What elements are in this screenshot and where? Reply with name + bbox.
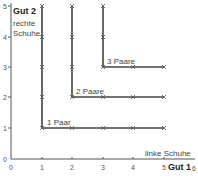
svg-text:0: 0: [3, 156, 7, 163]
y-axis-sub-1: rechte: [13, 19, 36, 28]
y-ticks: 0 1 2 3 4 5: [3, 3, 11, 163]
svg-text:1: 1: [40, 164, 44, 171]
svg-text:0: 0: [9, 164, 13, 171]
svg-text:1: 1: [3, 125, 7, 132]
svg-text:5: 5: [3, 3, 7, 10]
svg-text:3: 3: [3, 64, 7, 71]
label-3-paare: 3 Paare: [107, 57, 136, 66]
curve-2-paare: [72, 6, 164, 97]
label-2-paare: 2 Paare: [76, 87, 105, 96]
x-axis-title: Gut 1: [168, 162, 191, 172]
y-axis-sub-2: Schuhe: [13, 29, 41, 38]
svg-text:2: 2: [3, 94, 7, 101]
svg-text:4: 4: [3, 34, 7, 41]
y-axis-title: Gut 2: [13, 6, 36, 16]
label-1-paar: 1 Paar: [47, 118, 71, 127]
svg-text:4: 4: [131, 164, 135, 171]
svg-text:6: 6: [192, 165, 196, 172]
svg-text:3: 3: [101, 164, 105, 171]
indifference-curves-chart: 0 1 2 3 4 5 0 1 2 3 4 5 6 1 Paar 2 Paare…: [0, 0, 198, 180]
svg-text:5: 5: [162, 164, 166, 171]
x-axis-sub: linke Schuhe: [145, 149, 191, 158]
svg-text:2: 2: [70, 164, 74, 171]
